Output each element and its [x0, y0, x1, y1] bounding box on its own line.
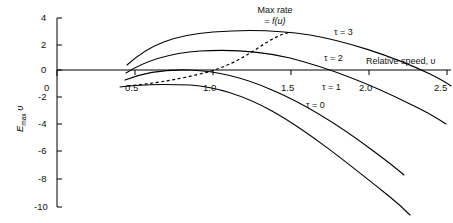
annotation-max-rate-line2: = f(u) [240, 16, 310, 27]
curve-label-tau-1: τ = 1 [322, 82, 341, 92]
y-tick-label-0: 0 [41, 65, 46, 75]
x-tick-label-1-5: 1.5 [281, 83, 294, 93]
x-tick-label-2-0: 2.0 [359, 83, 372, 93]
curve-label-tau-2: τ = 2 [324, 53, 343, 63]
y-axis-title-sub: max [20, 113, 27, 125]
chart-canvas [0, 0, 453, 223]
chart-figure: 4 2 0 -2 -4 -6 -8 -10 0 0.5 1.0 1.5 2.0 … [0, 0, 453, 223]
x-tick-label-0-5: 0.5 [125, 83, 138, 93]
curve-max-rate-dashed [128, 32, 291, 86]
x-tick-label-2-5: 2.5 [434, 83, 447, 93]
y-axis-title: Emax υ [14, 106, 27, 133]
x-axis-title: Relative speed, υ [366, 56, 435, 66]
curve-label-tau-3: τ = 3 [334, 27, 353, 37]
y-axis-title-tail: υ [14, 106, 25, 114]
x-axis-ticks [57, 70, 447, 76]
y-tick-label-m8: -8 [38, 174, 46, 184]
y-tick-label-2: 2 [41, 40, 46, 50]
y-tick-label-4: 4 [41, 13, 46, 23]
curve-tau-0 [120, 84, 410, 215]
curve-label-tau-0: τ = 0 [306, 100, 325, 110]
y-axis-title-main: E [14, 126, 25, 132]
y-tick-label-m4: -4 [38, 119, 46, 129]
y-tick-label-m2: -2 [38, 92, 46, 102]
annotation-max-rate-line1: Max rate [240, 5, 310, 16]
y-axis-ticks [57, 18, 62, 207]
y-tick-label-m6: -6 [38, 146, 46, 156]
x-tick-label-0: 0 [44, 83, 49, 93]
y-tick-label-m10: -10 [34, 202, 48, 212]
x-tick-label-1-0: 1.0 [203, 83, 216, 93]
annotation-max-rate: Max rate = f(u) [240, 5, 310, 27]
